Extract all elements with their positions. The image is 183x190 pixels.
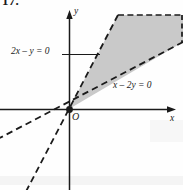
x-axis-label: x bbox=[170, 114, 174, 124]
lower-boundary-line-label: x – 2y = 0 bbox=[113, 81, 152, 91]
upper-boundary-line-label: 2x – y = 0 bbox=[11, 47, 50, 57]
exercise-number: 17. bbox=[2, 0, 19, 7]
y-axis-arrowhead bbox=[66, 10, 72, 19]
graph-figure: 17. 2x – y = 0 x – 2y = 0 O x y bbox=[0, 0, 183, 190]
coordinate-plane bbox=[0, 0, 183, 190]
origin-label: O bbox=[72, 112, 79, 122]
x-axis-arrowhead bbox=[167, 106, 176, 113]
y-axis-label: y bbox=[74, 7, 78, 17]
shaded-region bbox=[69, 15, 183, 109]
